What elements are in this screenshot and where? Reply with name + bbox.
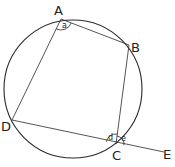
side-cd-extended-to-e: [12, 120, 164, 152]
point-label-b: B: [131, 40, 140, 55]
angle-label-d: d: [108, 133, 113, 142]
point-label-c: C: [112, 148, 121, 163]
cyclic-quadrilateral-diagram: A B C D E a d e: [0, 0, 175, 167]
point-label-d: D: [1, 119, 11, 134]
angle-label-e: e: [121, 134, 126, 143]
point-label-e: E: [163, 147, 171, 162]
side-ab: [61, 19, 129, 45]
point-label-a: A: [54, 3, 63, 18]
angle-label-a: a: [62, 21, 67, 30]
side-da: [12, 19, 61, 120]
side-bc: [116, 45, 129, 144]
